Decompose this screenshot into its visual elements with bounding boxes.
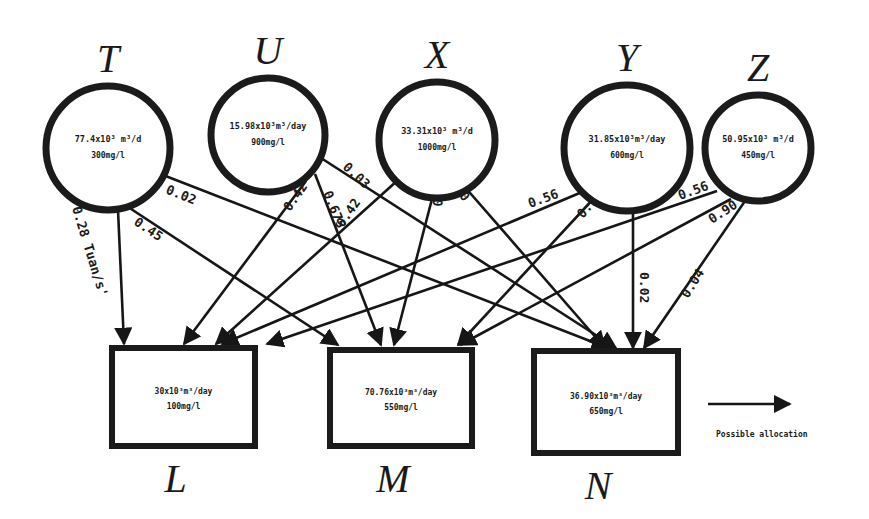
source-circle xyxy=(564,85,690,211)
sink-node-n: 36.90x10³m³/day650mg/lN xyxy=(534,351,678,508)
edge-label-z-n: 0.04 xyxy=(678,266,707,301)
source-circle xyxy=(379,82,495,198)
source-node-t: T77.4x10³ m³/d300mg/l xyxy=(46,36,170,210)
source-node-u: U15.98x10³m³/day900mg/l xyxy=(211,28,325,192)
legend: Possible allocation xyxy=(708,404,808,439)
source-letter: Z xyxy=(747,45,770,90)
source-node-x: X33.31x10³ m³/d1000mg/l xyxy=(379,32,495,198)
sink-node-m: 70.76x10³m³/day550mg/lM xyxy=(330,350,472,501)
source-circle xyxy=(211,78,325,192)
source-flow: 33.31x10³ m³/d xyxy=(401,126,473,136)
source-flow: 77.4x10³ m³/d xyxy=(75,134,142,144)
source-letter: X xyxy=(423,32,451,77)
edge-label-u-n: 0.03 xyxy=(340,159,373,191)
sink-flow: 30x10³m³/day xyxy=(155,387,213,396)
edge-t-to-l xyxy=(118,210,124,344)
source-concentration: 900mg/l xyxy=(251,138,285,147)
sink-letter: M xyxy=(375,456,412,501)
source-circle xyxy=(46,86,170,210)
source-letter: T xyxy=(97,36,122,81)
sink-concentration: 100mg/l xyxy=(167,402,201,411)
source-letter: U xyxy=(254,28,286,73)
source-letter: Y xyxy=(616,35,642,80)
sink-concentration: 650mg/l xyxy=(589,407,623,416)
sink-box xyxy=(534,351,678,453)
source-node-z: Z50.95x10³ m³/d450mg/l xyxy=(705,45,811,201)
sinks-layer: 30x10³m³/day100mg/lL70.76x10³m³/day550mg… xyxy=(112,348,678,508)
edge-x-to-m xyxy=(394,199,432,345)
legend-label: Possible allocation xyxy=(716,429,808,439)
source-flow: 15.98x10³m³/day xyxy=(230,121,307,131)
sink-flow: 36.90x10³m³/day xyxy=(570,392,642,401)
sink-node-l: 30x10³m³/day100mg/lL xyxy=(112,348,255,501)
allocation-diagram: 0.28 Tuan/s'0.450.020.420.6750.030.420.6… xyxy=(0,0,869,519)
source-concentration: 600mg/l xyxy=(610,151,644,160)
source-concentration: 1000mg/l xyxy=(418,143,457,152)
source-concentration: 300mg/l xyxy=(91,151,125,160)
edge-label-y-n: 0.02 xyxy=(637,272,652,303)
sink-letter: N xyxy=(584,463,614,508)
source-flow: 31.85x10³m³/day xyxy=(589,134,666,144)
sink-concentration: 550mg/l xyxy=(384,403,418,412)
source-circle xyxy=(705,95,811,201)
source-concentration: 450mg/l xyxy=(741,151,775,160)
sink-flow: 70.76x10³m³/day xyxy=(365,388,437,397)
sink-box xyxy=(330,350,472,446)
source-flow: 50.95x10³ m³/d xyxy=(722,134,794,144)
source-node-y: Y31.85x10³m³/day600mg/l xyxy=(564,35,690,211)
sink-letter: L xyxy=(163,456,186,501)
sink-box xyxy=(112,348,255,446)
edge-label-t-m: 0.45 xyxy=(131,214,165,244)
edge-label-t-l: 0.28 Tuan/s' xyxy=(69,204,111,298)
edge-label-z-m: 0.90 xyxy=(705,197,740,227)
